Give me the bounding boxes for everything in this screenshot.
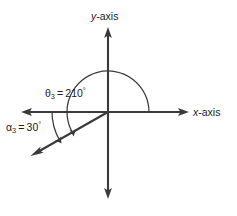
angle-diagram-figure: y-axis x-axis θ3 = 210° α3 = 30° [0, 0, 237, 216]
y-axis-label: y-axis [90, 10, 118, 22]
alpha-angle-label: α3 = 30° [6, 120, 41, 136]
x-axis-label: x-axis [192, 106, 220, 118]
theta-angle-label: θ3 = 210° [45, 86, 86, 102]
diagram-canvas: y-axis x-axis θ3 = 210° α3 = 30° [0, 0, 237, 216]
terminal-ray-arrow-icon [31, 147, 44, 157]
alpha-arc [52, 112, 60, 140]
